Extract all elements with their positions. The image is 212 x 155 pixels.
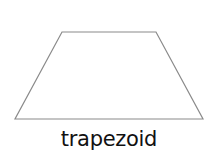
shape-label: trapezoid xyxy=(0,127,212,151)
trapezoid-polygon xyxy=(15,32,203,119)
